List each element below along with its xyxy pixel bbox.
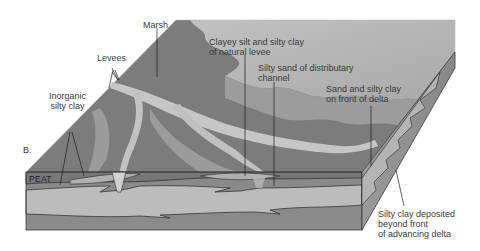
label-marsh: Marsh bbox=[143, 20, 168, 30]
label-sand-front-of-delta: Sand and silty clay on front of delta bbox=[326, 84, 401, 104]
label-clayey-silt-natural-levee: Clayey silt and silty clay of natural le… bbox=[209, 37, 304, 57]
delta-block-diagram: Marsh Levees Inorganic silty clay Clayey… bbox=[0, 0, 480, 251]
label-silty-sand-distributary-channel: Silty sand of distributary channel bbox=[258, 63, 354, 83]
label-levees: Levees bbox=[97, 53, 126, 63]
label-peat: PEAT bbox=[29, 174, 52, 184]
panel-letter: B. bbox=[23, 145, 32, 155]
label-inorganic-silty-clay: Inorganic silty clay bbox=[49, 91, 86, 111]
leader-silty-clay-beyond bbox=[396, 170, 404, 206]
label-silty-clay-beyond-front: Silty clay deposited beyond front of adv… bbox=[378, 209, 455, 239]
